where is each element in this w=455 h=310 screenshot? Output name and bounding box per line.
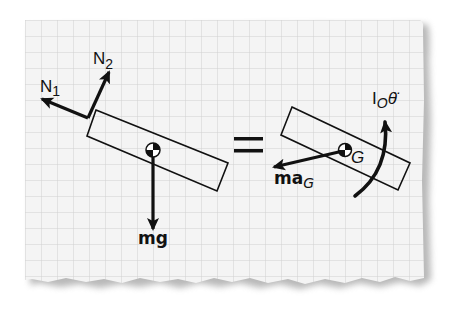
label-mg: mg — [138, 228, 168, 248]
center-of-mass-icon — [146, 143, 160, 157]
free-body-diagram: N1 N2 mg = G — [0, 0, 455, 310]
center-of-mass-icon-kinetic — [339, 144, 352, 157]
label-g: G — [351, 148, 364, 167]
